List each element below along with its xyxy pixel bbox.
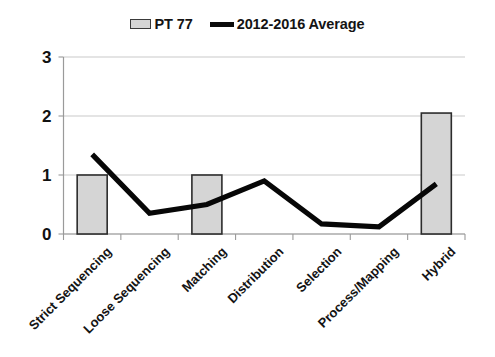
- plot-area: 0123 Strict SequencingLoose SequencingMa…: [0, 0, 495, 357]
- y-tick-label-2: 2: [42, 107, 51, 126]
- y-tick-label-3: 3: [42, 48, 51, 67]
- average-line-path[interactable]: [92, 154, 436, 227]
- chart-svg: 0123: [0, 0, 495, 357]
- chart-container: PT 77 2012-2016 Average 0123 Strict Sequ…: [0, 0, 495, 357]
- x-tickmarks: [59, 57, 466, 240]
- bar-hybrid[interactable]: [421, 113, 451, 234]
- line-series-average: [92, 154, 436, 227]
- y-tick-label-0: 0: [42, 225, 51, 244]
- y-tick-label-1: 1: [42, 166, 51, 185]
- y-tick-labels: 0123: [42, 48, 51, 244]
- bar-strict-sequencing[interactable]: [77, 175, 107, 234]
